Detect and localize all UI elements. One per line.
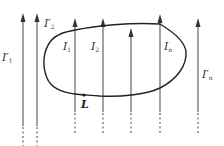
wire-i-1 bbox=[73, 18, 78, 133]
arrow-up-icon bbox=[129, 28, 134, 37]
wire-unlabeled bbox=[129, 28, 134, 133]
label-i-prime-1: I′1 bbox=[1, 51, 13, 64]
arrow-up-icon bbox=[196, 18, 201, 27]
arrow-up-icon bbox=[73, 18, 78, 27]
label-loop-l: L bbox=[80, 98, 89, 111]
label-i-1: I1 bbox=[62, 40, 71, 53]
loop-direction-marker bbox=[82, 93, 85, 96]
arrow-up-icon bbox=[21, 13, 26, 22]
wire-i-prime-1 bbox=[21, 13, 26, 146]
label-i-prime-2: I′2 bbox=[43, 17, 55, 30]
closed-loop-path bbox=[44, 23, 186, 96]
label-i-n: In bbox=[163, 40, 172, 53]
wire-i-n bbox=[158, 14, 163, 133]
wire-i-prime-2 bbox=[35, 13, 40, 146]
wire-i-prime-n bbox=[196, 18, 201, 133]
arrow-up-icon bbox=[35, 13, 40, 22]
label-i-2: I2 bbox=[90, 40, 99, 53]
label-i-prime-n: I′n bbox=[201, 68, 213, 81]
wire-i-2 bbox=[101, 18, 106, 133]
arrow-up-icon bbox=[158, 14, 163, 23]
ampere-loop-diagram: I′1 I′2 I1 I2 In I′n L bbox=[0, 0, 224, 146]
